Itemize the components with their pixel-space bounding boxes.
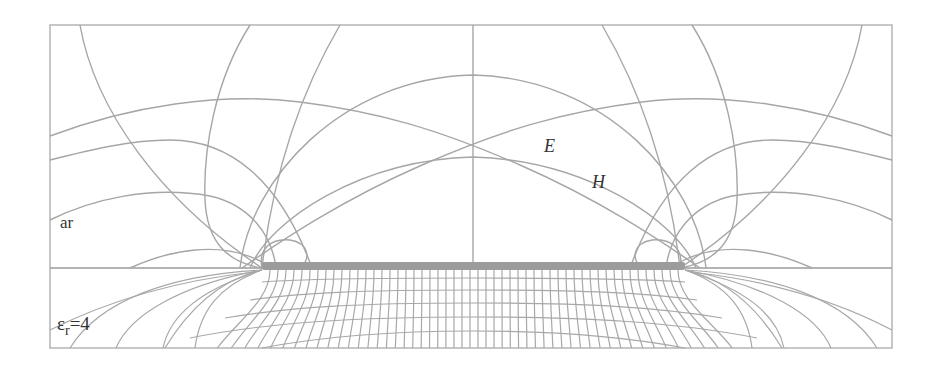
e-field-line <box>413 270 414 348</box>
e-field-line <box>429 270 430 348</box>
electric-field-label: E <box>543 136 555 156</box>
e-field-line <box>574 270 580 348</box>
e-field-line <box>582 270 590 348</box>
diagram-frame <box>50 25 892 348</box>
upper-field-lines <box>50 25 892 268</box>
e-field-line <box>377 270 382 348</box>
e-field-line <box>395 270 398 348</box>
magnetic-field-label: H <box>591 172 606 192</box>
e-field-line <box>558 270 562 348</box>
dielectric-region-label: εr=4 <box>57 313 90 338</box>
e-field-line <box>386 270 390 348</box>
e-field-line <box>534 270 535 348</box>
microstrip-field-diagram: ar εr=4 E H <box>0 0 936 367</box>
e-field-line <box>622 270 643 348</box>
microstrip-conductor <box>262 262 685 270</box>
e-field-line <box>518 270 519 348</box>
e-field-line <box>550 270 553 348</box>
e-field-line <box>542 270 544 348</box>
e-field-line <box>566 270 571 348</box>
e-field-line <box>421 270 422 348</box>
e-field-line <box>368 270 374 348</box>
dielectric-field-lines <box>50 268 892 348</box>
e-field-line <box>358 270 366 348</box>
air-region-label: ar <box>60 213 74 232</box>
e-field-line <box>404 270 406 348</box>
e-field-line <box>526 270 527 348</box>
